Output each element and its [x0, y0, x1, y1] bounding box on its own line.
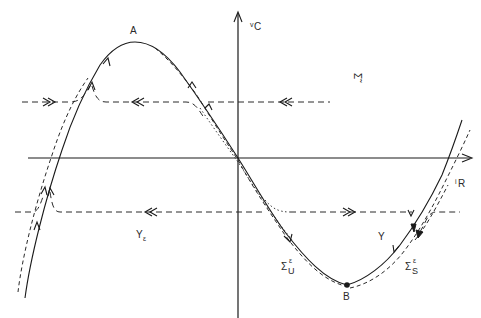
- sigma-s-sub: S: [412, 266, 418, 276]
- phase-portrait-diagram: A B v C i R Σ̃ Y Y ε Σ ε U Σ ε S: [0, 0, 481, 318]
- upper-fast-fibre-left: [22, 86, 90, 102]
- x-axis-label-sub: R: [458, 178, 465, 189]
- slow-manifold-middle-dashed: [155, 48, 350, 287]
- upsilon-epsilon-label: Y: [136, 229, 143, 240]
- upsilon-epsilon-sub: ε: [143, 235, 146, 242]
- sigma-u-label: Σ: [281, 261, 287, 272]
- sigma-s-label: Σ: [405, 261, 411, 272]
- sigma-s-sup: ε: [413, 257, 416, 264]
- arrow-down-icon: [393, 245, 399, 252]
- arrow-up-icon: [48, 188, 54, 196]
- point-b-marker: [344, 282, 350, 288]
- lower-fast-fibre-far-right: [420, 212, 460, 232]
- slow-manifold-middle-dotted: [200, 108, 292, 240]
- point-a-label: A: [130, 25, 137, 36]
- x-axis-label-i: i: [455, 178, 457, 185]
- sigma-u-sup: ε: [289, 257, 292, 264]
- arrow-up-icon: [88, 82, 95, 90]
- lower-fast-fibre-left: [15, 194, 44, 212]
- sigma-u-sub: U: [288, 266, 295, 276]
- arrow-down-icon: [408, 210, 414, 216]
- upper-fast-fibre-middle: [92, 86, 204, 118]
- cubic-nullcline-curve: [25, 42, 462, 298]
- lower-fast-fibre-middle: [50, 192, 265, 212]
- sigma-tilde-label: Σ̃: [352, 73, 363, 83]
- upsilon-label: Y: [378, 231, 385, 242]
- point-b-label: B: [343, 291, 350, 302]
- y-axis-label-sub: C: [254, 21, 261, 32]
